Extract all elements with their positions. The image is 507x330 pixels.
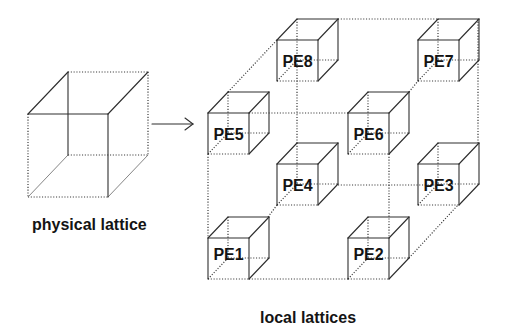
lattice-edge (228, 40, 277, 92)
cube-edge (348, 217, 368, 238)
pe-label: PE3 (423, 177, 453, 194)
pe-label: PE8 (282, 53, 312, 70)
pe-cube-pe6: PE6 (348, 92, 409, 154)
lattice-edge (409, 81, 418, 92)
lattice-edge (409, 205, 458, 258)
processing-elements: PE1PE2PE3PE4PE5PE6PE7PE8 (208, 19, 479, 279)
physical-lattice-label: physical lattice (32, 216, 147, 233)
pe-cube-pe3: PE3 (418, 143, 479, 205)
cube-edge (389, 258, 409, 279)
cube-edge (348, 92, 368, 113)
pe-label: PE2 (353, 246, 383, 263)
cube-edge (249, 133, 269, 154)
lattice-edge (268, 205, 277, 217)
cube-edge (108, 72, 148, 114)
cube-edge (389, 92, 409, 113)
cube-edge (249, 258, 269, 279)
cube-edge (208, 217, 228, 238)
pe-cube-pe8: PE8 (277, 19, 338, 81)
pe-label: PE5 (213, 126, 243, 143)
cube-edge (459, 60, 479, 81)
cube-edge (318, 60, 338, 81)
pe-cube-pe5: PE5 (208, 92, 269, 154)
cube-edge (108, 155, 148, 197)
lattice-diagram: PE1PE2PE3PE4PE5PE6PE7PE8 physical lattic… (0, 0, 507, 330)
cube-edge (277, 143, 297, 164)
physical-lattice-cube (28, 72, 148, 197)
cube-edge (459, 184, 479, 205)
cube-edge (318, 184, 338, 205)
pe-label: PE6 (353, 126, 383, 143)
pe-cube-pe7: PE7 (418, 19, 479, 81)
cube-edge (389, 217, 409, 238)
pe-label: PE7 (423, 53, 453, 70)
cube-edge (418, 143, 438, 164)
cube-edge (277, 19, 297, 40)
cube-edge (208, 92, 228, 113)
diagram-canvas: PE1PE2PE3PE4PE5PE6PE7PE8 physical lattic… (0, 0, 507, 330)
cube-edge (318, 19, 338, 40)
cube-edge (249, 217, 269, 238)
pe-cube-pe2: PE2 (348, 217, 409, 279)
cube-edge (28, 72, 68, 114)
cube-edge (418, 19, 438, 40)
cube-edge (318, 143, 338, 164)
cube-edge (459, 19, 479, 40)
pe-label: PE1 (213, 246, 243, 263)
pe-cube-pe1: PE1 (208, 217, 269, 279)
cube-edge (389, 133, 409, 154)
pe-cube-pe4: PE4 (277, 143, 338, 205)
local-lattices-label: local lattices (260, 309, 356, 326)
pe-label: PE4 (282, 177, 312, 194)
cube-edge (459, 143, 479, 164)
cube-edge (249, 92, 269, 113)
cube-edge (28, 155, 68, 197)
mapping-arrow (152, 118, 193, 130)
